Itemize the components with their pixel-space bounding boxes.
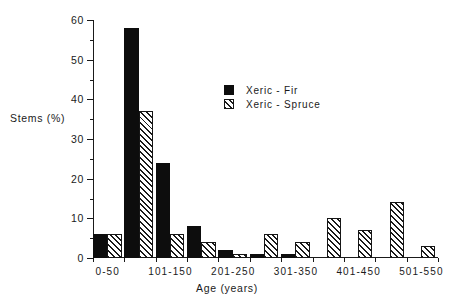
x-tick-401-450: [344, 258, 345, 262]
x-tick-label-0-50: 0-50: [96, 266, 120, 277]
y-tick-label-20: 20: [71, 173, 84, 185]
bar-xeric-fir-201-250: [218, 250, 232, 258]
y-minor-tick-35: [90, 119, 93, 120]
y-tick-label-50: 50: [71, 54, 84, 66]
y-tick-label-10: 10: [71, 212, 84, 224]
y-tick-label-60: 60: [71, 14, 84, 26]
hatched-swatch-icon: [224, 99, 234, 109]
legend-label-spruce: Xeric - Spruce: [246, 99, 321, 110]
y-minor-tick-25: [90, 159, 93, 160]
y-tick-20: [87, 179, 93, 180]
y-axis-line: [93, 20, 94, 258]
x-tick-151-200: [187, 258, 188, 262]
x-tick-label-201-250: 201-250: [211, 266, 255, 277]
y-tick-10: [87, 218, 93, 219]
y-tick-40: [87, 99, 93, 100]
y-axis-title: Stems (%): [10, 112, 65, 124]
bar-xeric-fir-101-150: [156, 163, 170, 258]
x-tick-101-150: [156, 258, 157, 262]
bar-xeric-spruce-201-250: [233, 254, 247, 258]
x-tick-451-500: [375, 258, 376, 262]
plot-area: 0102030405060 0-50101-150201-250301-3504…: [93, 20, 438, 258]
y-tick-label-40: 40: [71, 93, 84, 105]
y-minor-tick-55: [90, 40, 93, 41]
bar-xeric-spruce-351-400: [327, 218, 341, 258]
x-tick-251-300: [250, 258, 251, 262]
y-minor-tick-15: [90, 199, 93, 200]
bar-xeric-spruce-451-500: [390, 202, 404, 258]
x-tick-0-50: [93, 258, 94, 262]
bar-xeric-fir-251-300: [250, 254, 264, 258]
x-tick-label-401-450: 401-450: [336, 266, 380, 277]
legend-label-fir: Xeric - Fir: [246, 85, 298, 96]
bar-xeric-fir-51-100: [124, 28, 138, 258]
legend-item-spruce: Xeric - Spruce: [224, 97, 321, 111]
x-tick-351-400: [313, 258, 314, 262]
solid-black-swatch-icon: [224, 85, 234, 95]
bar-xeric-spruce-51-100: [139, 111, 153, 258]
bar-xeric-spruce-301-350: [295, 242, 309, 258]
x-axis-title: Age (years): [0, 282, 454, 294]
y-tick-30: [87, 139, 93, 140]
chart-legend: Xeric - Fir Xeric - Spruce: [224, 83, 321, 111]
bar-xeric-spruce-151-200: [201, 242, 215, 258]
bar-xeric-fir-301-350: [281, 254, 295, 258]
bar-xeric-fir-0-50: [93, 234, 107, 258]
y-tick-label-30: 30: [71, 133, 84, 145]
bar-xeric-spruce-401-450: [358, 230, 372, 258]
bar-xeric-fir-151-200: [187, 226, 201, 258]
bar-chart-figure: Stems (%) Age (years) 0102030405060 0-50…: [0, 0, 454, 305]
x-tick-501-550: [407, 258, 408, 262]
y-tick-label-0: 0: [78, 252, 84, 264]
x-tick-51-100: [124, 258, 125, 262]
bar-xeric-spruce-0-50: [107, 234, 121, 258]
legend-item-fir: Xeric - Fir: [224, 83, 321, 97]
y-tick-60: [87, 20, 93, 21]
x-tick-label-101-150: 101-150: [148, 266, 192, 277]
x-tick-label-501-550: 501-550: [399, 266, 443, 277]
y-minor-tick-45: [90, 80, 93, 81]
bar-xeric-spruce-501-550: [421, 246, 435, 258]
x-tick-label-301-350: 301-350: [274, 266, 318, 277]
bar-xeric-spruce-101-150: [170, 234, 184, 258]
x-tick-end: [438, 258, 439, 262]
x-tick-201-250: [218, 258, 219, 262]
x-tick-301-350: [281, 258, 282, 262]
y-tick-50: [87, 60, 93, 61]
bar-xeric-spruce-251-300: [264, 234, 278, 258]
